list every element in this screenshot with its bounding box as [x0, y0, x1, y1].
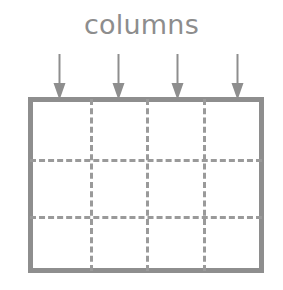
arrow-column-3-icon	[170, 54, 185, 100]
column-divider-3	[203, 99, 206, 271]
row-divider-2	[30, 216, 262, 219]
column-divider-1	[90, 99, 93, 271]
table-grid-lines	[33, 102, 259, 268]
arrow-column-1-icon	[52, 54, 67, 100]
arrow-column-4-icon	[230, 54, 245, 100]
page-title: columns	[0, 9, 283, 41]
row-divider-1	[30, 159, 262, 162]
arrow-column-2-icon	[111, 54, 126, 100]
table-grid	[28, 97, 264, 273]
column-divider-2	[146, 99, 149, 271]
diagram-canvas: columns	[0, 0, 283, 290]
